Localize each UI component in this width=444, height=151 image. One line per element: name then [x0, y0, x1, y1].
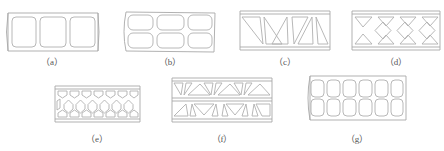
caption-f: （f） [212, 132, 233, 145]
caption-e: （e） [86, 132, 108, 145]
caption-g: （g） [346, 132, 369, 145]
panel-g-diagram [0, 0, 444, 130]
